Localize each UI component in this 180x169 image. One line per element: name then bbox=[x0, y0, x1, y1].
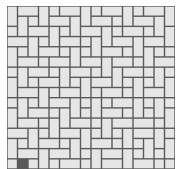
tile bbox=[50, 149, 70, 158]
tile bbox=[39, 37, 48, 46]
tile bbox=[155, 58, 175, 67]
tile bbox=[123, 109, 132, 118]
tile bbox=[18, 149, 38, 158]
tile bbox=[71, 119, 91, 128]
tile bbox=[81, 109, 90, 118]
tile bbox=[71, 139, 80, 158]
tile bbox=[50, 7, 59, 16]
tile bbox=[81, 37, 90, 46]
tile bbox=[8, 47, 17, 66]
tile bbox=[134, 37, 143, 56]
tile bbox=[134, 139, 143, 148]
tile bbox=[60, 160, 80, 169]
tile bbox=[165, 78, 174, 97]
tile bbox=[144, 109, 153, 118]
tile bbox=[92, 129, 101, 138]
tile bbox=[113, 98, 133, 107]
tile bbox=[39, 78, 59, 87]
tile bbox=[123, 88, 132, 97]
tile bbox=[102, 58, 111, 77]
tile bbox=[102, 7, 122, 16]
tile bbox=[18, 47, 27, 56]
tile bbox=[123, 129, 132, 148]
tile bbox=[60, 27, 69, 36]
tile bbox=[39, 58, 48, 67]
tile bbox=[102, 109, 122, 118]
tile bbox=[29, 109, 49, 118]
tile bbox=[144, 88, 164, 97]
tile bbox=[155, 119, 164, 128]
tile bbox=[92, 98, 101, 117]
tile bbox=[39, 47, 59, 56]
tile bbox=[71, 98, 80, 117]
tile bbox=[81, 78, 90, 97]
tile bbox=[39, 7, 48, 26]
tile bbox=[50, 119, 59, 138]
tile bbox=[155, 47, 164, 56]
tile bbox=[8, 98, 17, 107]
tile bbox=[165, 109, 174, 128]
tile bbox=[165, 7, 174, 26]
tile bbox=[39, 139, 59, 148]
tile bbox=[81, 27, 101, 36]
tile bbox=[134, 149, 143, 158]
tile bbox=[102, 149, 122, 158]
tile bbox=[71, 68, 91, 77]
tile bbox=[50, 27, 59, 46]
tile bbox=[92, 68, 101, 77]
tile bbox=[60, 139, 69, 148]
tile bbox=[123, 27, 143, 36]
tile bbox=[165, 129, 174, 138]
tile bbox=[8, 7, 17, 26]
tile bbox=[8, 37, 28, 46]
tile bbox=[8, 27, 17, 36]
tile bbox=[123, 78, 132, 87]
tile bbox=[81, 160, 90, 169]
tile bbox=[134, 98, 143, 117]
tile bbox=[155, 129, 164, 148]
tile bbox=[155, 149, 164, 158]
tile bbox=[18, 58, 38, 67]
tile bbox=[50, 98, 70, 107]
tile bbox=[134, 78, 143, 97]
tile bbox=[92, 88, 101, 97]
tile bbox=[113, 129, 122, 138]
tile bbox=[102, 47, 122, 56]
tile bbox=[71, 47, 80, 66]
tile bbox=[8, 139, 17, 158]
tile bbox=[113, 139, 122, 148]
tile-pattern bbox=[7, 6, 175, 169]
tile bbox=[8, 68, 17, 77]
tile bbox=[29, 17, 38, 26]
tile bbox=[18, 17, 27, 36]
tile bbox=[113, 58, 133, 67]
tile bbox=[144, 7, 164, 16]
tile bbox=[60, 68, 69, 87]
tile bbox=[60, 7, 80, 16]
tile bbox=[113, 68, 122, 87]
tile bbox=[113, 119, 133, 128]
tile bbox=[92, 119, 101, 128]
tile bbox=[165, 139, 174, 158]
tile bbox=[144, 139, 153, 158]
tile bbox=[8, 78, 17, 97]
tile bbox=[39, 119, 48, 128]
tile bbox=[92, 149, 101, 168]
tile bbox=[50, 160, 59, 169]
tile bbox=[29, 78, 38, 87]
tile bbox=[18, 88, 38, 97]
tile bbox=[123, 7, 132, 26]
tile bbox=[113, 17, 122, 26]
tile bbox=[144, 78, 153, 87]
tile bbox=[92, 37, 101, 56]
tile bbox=[8, 109, 17, 128]
tile bbox=[39, 88, 48, 107]
tile bbox=[113, 27, 122, 36]
tile bbox=[102, 88, 122, 97]
tile bbox=[134, 129, 154, 138]
tile bbox=[39, 129, 48, 138]
tile bbox=[134, 119, 154, 128]
tile bbox=[18, 119, 38, 128]
tile bbox=[134, 7, 143, 16]
tile bbox=[50, 109, 59, 118]
